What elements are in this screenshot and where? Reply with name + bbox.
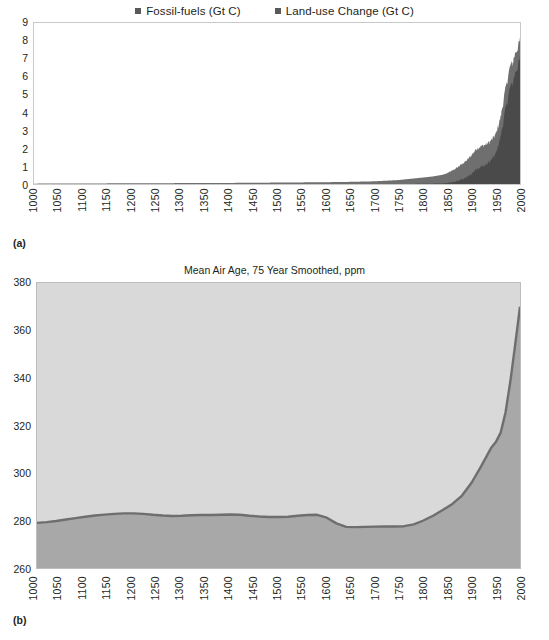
y-tick-label-a-3: 3 [0, 125, 28, 137]
y-tick-label-a-2: 2 [0, 143, 28, 155]
panel-tag-b: (b) [13, 614, 26, 626]
legend-label-fossil-fuels: Fossil-fuels (Gt C) [146, 5, 241, 17]
panel-tag-a: (a) [13, 237, 26, 249]
x-tick-label-b-1900: 1900 [466, 576, 478, 601]
x-tick-label-a-1600: 1600 [320, 188, 332, 213]
x-tick-label-b-1100: 1100 [76, 576, 88, 600]
area-chart-emissions [34, 23, 520, 184]
y-tick-label-a-1: 1 [0, 161, 28, 173]
x-tick-label-a-2000: 2000 [515, 188, 527, 213]
y-tick-label-b-320: 320 [0, 420, 31, 432]
x-tick-label-b-1500: 1500 [271, 576, 283, 601]
y-tick-label-b-340: 340 [0, 372, 31, 384]
y-tick-label-a-5: 5 [0, 88, 28, 100]
x-tick-label-b-1950: 1950 [491, 576, 503, 601]
x-tick-label-b-1250: 1250 [149, 576, 161, 601]
x-tick-label-a-1950: 1950 [491, 188, 503, 213]
x-tick-label-a-1900: 1900 [466, 188, 478, 213]
x-tick-label-a-1300: 1300 [173, 188, 185, 213]
x-tick-label-b-1700: 1700 [369, 576, 381, 601]
x-tick-label-b-1200: 1200 [125, 576, 137, 601]
x-axis-panel-a: 1000105011001150120012501300135014001450… [33, 188, 521, 234]
x-tick-label-a-1750: 1750 [393, 188, 405, 213]
y-tick-label-a-4: 4 [0, 107, 28, 119]
y-tick-label-a-7: 7 [0, 52, 28, 64]
x-tick-label-a-1000: 1000 [27, 188, 39, 213]
y-tick-label-b-380: 380 [0, 276, 31, 288]
plot-area-panel-a [33, 22, 521, 185]
x-tick-label-a-1150: 1150 [100, 188, 112, 212]
x-tick-label-a-1400: 1400 [222, 188, 234, 213]
legend-swatch-icon-land-use-change [275, 8, 281, 14]
legend-entry-land-use-change: Land-use Change (Gt C) [275, 5, 414, 17]
x-tick-label-b-1000: 1000 [27, 576, 39, 601]
line-series-co2 [37, 307, 520, 527]
x-tick-label-a-1100: 1100 [76, 188, 88, 212]
area-chart-co2-concentration [37, 283, 520, 568]
x-tick-label-b-1800: 1800 [417, 576, 429, 601]
x-tick-label-b-1550: 1550 [295, 576, 307, 601]
x-tick-label-a-1550: 1550 [295, 188, 307, 213]
y-tick-label-a-0: 0 [0, 179, 28, 191]
x-tick-label-a-1800: 1800 [417, 188, 429, 213]
x-tick-label-b-1050: 1050 [51, 576, 63, 601]
legend-swatch-icon-fossil-fuels [135, 8, 141, 14]
x-tick-label-a-1200: 1200 [125, 188, 137, 213]
x-tick-label-b-1300: 1300 [173, 576, 185, 601]
y-tick-label-a-8: 8 [0, 34, 28, 46]
x-tick-label-a-1650: 1650 [344, 188, 356, 213]
y-axis-panel-a: 0123456789 [0, 22, 28, 185]
x-tick-label-b-1400: 1400 [222, 576, 234, 601]
y-tick-label-a-6: 6 [0, 70, 28, 82]
x-axis-panel-b: 1000105011001150120012501300135014001450… [33, 576, 521, 622]
x-tick-label-b-2000: 2000 [515, 576, 527, 601]
x-tick-label-b-1450: 1450 [247, 576, 259, 601]
y-tick-label-b-360: 360 [0, 324, 31, 336]
x-tick-label-b-1600: 1600 [320, 576, 332, 601]
figure-co2-emissions-and-concentration: Fossil-fuels (Gt C) Land-use Change (Gt … [0, 0, 549, 640]
chart-title-panel-b: Mean Air Age, 75 Year Smoothed, ppm [0, 264, 549, 276]
x-tick-label-b-1750: 1750 [393, 576, 405, 601]
y-tick-label-b-260: 260 [0, 563, 31, 575]
area-series-fossil-fuels [34, 56, 520, 184]
x-tick-label-b-1350: 1350 [198, 576, 210, 601]
area-series-total-emissions [34, 37, 520, 184]
x-tick-label-a-1500: 1500 [271, 188, 283, 213]
legend-entry-fossil-fuels: Fossil-fuels (Gt C) [135, 5, 241, 17]
legend-panel-a: Fossil-fuels (Gt C) Land-use Change (Gt … [0, 5, 549, 17]
x-tick-label-b-1850: 1850 [442, 576, 454, 601]
x-tick-label-a-1350: 1350 [198, 188, 210, 213]
x-tick-label-a-1050: 1050 [51, 188, 63, 213]
x-tick-label-b-1150: 1150 [100, 576, 112, 600]
y-tick-label-a-9: 9 [0, 16, 28, 28]
x-tick-label-a-1850: 1850 [442, 188, 454, 213]
plot-area-panel-b [36, 282, 521, 569]
y-axis-panel-b: 260280300320340360380 [0, 282, 31, 569]
y-tick-label-b-300: 300 [0, 467, 31, 479]
x-tick-label-a-1700: 1700 [369, 188, 381, 213]
y-tick-label-b-280: 280 [0, 515, 31, 527]
area-series-co2-fill [37, 307, 520, 568]
x-tick-label-b-1650: 1650 [344, 576, 356, 601]
legend-label-land-use-change: Land-use Change (Gt C) [286, 5, 414, 17]
x-tick-label-a-1250: 1250 [149, 188, 161, 213]
x-tick-label-a-1450: 1450 [247, 188, 259, 213]
panel-a-emissions: Fossil-fuels (Gt C) Land-use Change (Gt … [0, 0, 549, 258]
